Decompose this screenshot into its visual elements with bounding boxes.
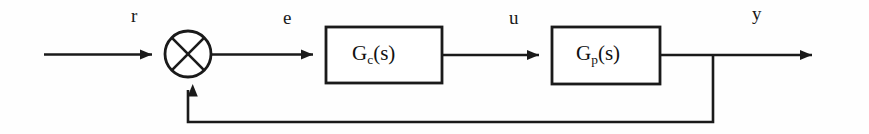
block-diagram-canvas: r e u y Gc(s) Gp(s) bbox=[0, 0, 869, 134]
controller-argument: (s) bbox=[373, 41, 395, 65]
controller-subscript: c bbox=[367, 52, 373, 67]
signal-label-reference: r bbox=[131, 6, 137, 25]
plant-subscript: p bbox=[591, 52, 598, 67]
plant-gain-text: G bbox=[576, 41, 591, 65]
plant-argument: (s) bbox=[598, 41, 620, 65]
signal-label-error: e bbox=[283, 8, 291, 27]
plant-block-label: Gp(s) bbox=[576, 43, 620, 64]
controller-gain-text: G bbox=[352, 41, 367, 65]
controller-block-label: Gc(s) bbox=[352, 43, 395, 64]
signal-label-control: u bbox=[509, 8, 519, 27]
signal-label-output: y bbox=[752, 4, 762, 23]
